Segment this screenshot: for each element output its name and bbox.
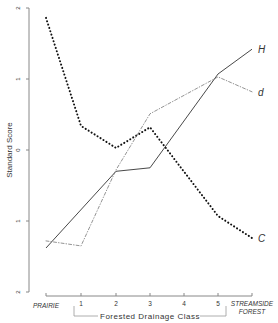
- y-tick-label: 0: [15, 148, 21, 152]
- series-label-H: H: [258, 44, 266, 55]
- series-label-C: C: [258, 233, 266, 244]
- series-lines: [46, 18, 252, 248]
- x-label-prairie: PRAIRIE: [33, 302, 60, 309]
- y-tick-label: 1: [15, 219, 21, 223]
- x-tick-label: 1: [79, 300, 83, 307]
- y-ticks: 21012: [15, 6, 29, 294]
- x-tick-label: 2: [114, 300, 118, 307]
- series-labels: CHd: [258, 44, 266, 244]
- y-tick-label: 2: [15, 6, 21, 10]
- line-chart: 21012 Standard Score 12345 PRAIRIE STREA…: [0, 0, 278, 323]
- x-label-forest: FOREST: [239, 308, 266, 315]
- series-label-d: d: [258, 87, 264, 98]
- x-tick-label: 5: [216, 300, 220, 307]
- y-tick-label: 2: [15, 290, 21, 294]
- x-tick-label: 3: [148, 300, 152, 307]
- x-label-streamside: STREAMSIDE: [231, 300, 274, 307]
- y-axis-label: Standard Score: [5, 122, 14, 178]
- series-line-d: [46, 77, 252, 246]
- x-ticks: 12345: [46, 293, 252, 307]
- series-line-C: [46, 18, 252, 238]
- series-line-H: [46, 49, 252, 248]
- x-axis-label: Forested Drainage Class: [100, 312, 200, 321]
- y-tick-label: 1: [15, 77, 21, 81]
- x-tick-label: 4: [182, 300, 186, 307]
